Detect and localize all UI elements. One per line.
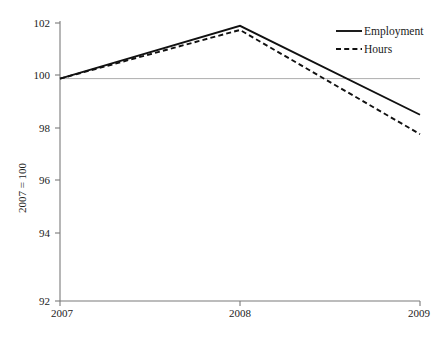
legend-label-employment: Employment <box>364 25 424 38</box>
legend-label-hours: Hours <box>364 43 393 55</box>
y-tick-label-98: 98 <box>39 122 51 134</box>
y-axis-title: 2007 = 100 <box>16 162 28 213</box>
y-tick-label-102: 102 <box>34 17 51 29</box>
x-tick-label-2009: 2009 <box>408 307 431 319</box>
y-tick-label-100: 100 <box>34 69 51 81</box>
y-tick-label-94: 94 <box>39 227 51 239</box>
legend: Employment Hours <box>336 25 424 55</box>
line-chart: 102 100 98 96 94 92 2007 2008 2009 2007 … <box>0 0 441 342</box>
chart-canvas: 102 100 98 96 94 92 2007 2008 2009 2007 … <box>0 0 441 342</box>
y-tick-label-92: 92 <box>39 295 50 307</box>
y-tick-label-96: 96 <box>39 174 51 186</box>
x-tick-label-2008: 2008 <box>229 307 252 319</box>
series-line-employment <box>60 26 420 115</box>
x-tick-label-2007: 2007 <box>51 307 74 319</box>
